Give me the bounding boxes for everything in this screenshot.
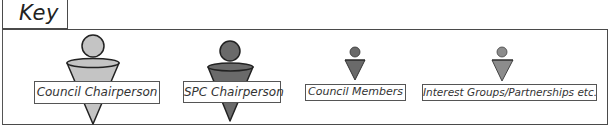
interest-groups-label: Interest Groups/Partnerships etc. <box>422 84 597 101</box>
council-chairperson-person-icon <box>67 35 119 124</box>
council-members-label: Council Members <box>305 84 406 101</box>
legend-icons <box>0 0 610 132</box>
council-chairperson-label: Council Chairperson <box>34 81 160 104</box>
council-members-person-icon <box>345 47 365 80</box>
interest-groups-person-icon <box>492 47 513 81</box>
spc-chairperson-label: SPC Chairperson <box>183 81 281 103</box>
